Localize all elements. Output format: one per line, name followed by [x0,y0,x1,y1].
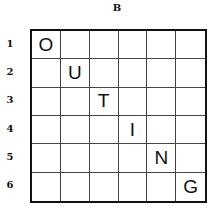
grid-cell[interactable] [147,116,176,144]
grid-cell[interactable] [176,88,205,116]
grid-cell[interactable] [90,116,119,144]
grid-cell[interactable] [119,59,148,87]
grid-cell[interactable]: G [176,173,205,201]
row-label: 6 [0,171,20,199]
puzzle-title: B [0,2,218,13]
grid-cell[interactable] [61,88,90,116]
grid-cell[interactable] [119,31,148,59]
grid-cell[interactable] [176,116,205,144]
row-label: 3 [0,86,20,114]
row-label: 1 [0,30,20,58]
grid-cell[interactable] [32,173,61,201]
grid-cell[interactable] [147,173,176,201]
row-labels: 1 2 3 4 5 6 [0,30,20,199]
grid-cell[interactable] [176,31,205,59]
grid-cell[interactable] [32,59,61,87]
grid-cell[interactable] [32,88,61,116]
letter-grid: OUTING [30,29,207,203]
row-label: 4 [0,115,20,143]
grid-cell[interactable] [61,116,90,144]
grid-cell[interactable] [90,31,119,59]
grid-cell[interactable] [90,59,119,87]
grid-cell[interactable] [90,144,119,172]
grid-cell[interactable] [147,31,176,59]
grid-cell[interactable] [119,88,148,116]
row-label: 2 [0,58,20,86]
grid-cell[interactable] [90,173,119,201]
grid-cell[interactable] [119,173,148,201]
grid-cell[interactable]: O [32,31,61,59]
grid-cell[interactable] [61,31,90,59]
grid-cell[interactable] [61,144,90,172]
grid-cell[interactable] [32,144,61,172]
grid-cell[interactable] [119,144,148,172]
grid-cell[interactable] [61,173,90,201]
grid-cell[interactable]: T [90,88,119,116]
grid-cell[interactable] [147,88,176,116]
grid-cell[interactable] [147,59,176,87]
grid-cell[interactable] [176,59,205,87]
grid-cell[interactable]: I [119,116,148,144]
grid-cell[interactable] [176,144,205,172]
grid-cell[interactable] [32,116,61,144]
grid-cell[interactable]: U [61,59,90,87]
row-label: 5 [0,143,20,171]
grid-cell[interactable]: N [147,144,176,172]
